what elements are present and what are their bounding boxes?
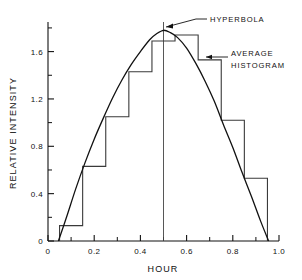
chart-figure: 00.40.81.21.6 00.20.40.60.81.0 HYPERBOLA… — [0, 0, 302, 280]
y-axis-tick-labels: 00.40.81.21.6 — [31, 48, 43, 246]
y-tick-label: 0.8 — [31, 142, 43, 151]
x-tick-label: 0.4 — [134, 247, 146, 256]
x-tick-label: 0 — [46, 247, 51, 256]
hyperbola-annotation-label: HYPERBOLA — [210, 15, 265, 24]
y-axis-title: RELATIVE INTENSITY — [8, 77, 18, 189]
histogram-arrow-head — [206, 55, 212, 59]
x-tick-label: 1.0 — [273, 247, 285, 256]
histogram-annotation-label-line2: HISTOGRAM — [231, 61, 285, 70]
x-tick-label: 0.6 — [180, 247, 192, 256]
x-axis-title: HOUR — [148, 264, 179, 274]
x-tick-label: 0.2 — [88, 247, 100, 256]
x-axis-tick-labels: 00.20.40.60.81.0 — [46, 247, 286, 256]
hyperbola-arrow-head — [166, 24, 173, 29]
y-axis-ticks — [48, 28, 54, 241]
y-tick-label: 0 — [38, 237, 43, 246]
y-tick-label: 1.6 — [31, 48, 43, 57]
histogram-annotation-label-line1: AVERAGE — [231, 49, 273, 58]
y-tick-label: 1.2 — [31, 95, 43, 104]
x-tick-label: 0.8 — [227, 247, 239, 256]
chart-canvas: 00.40.81.21.6 00.20.40.60.81.0 HYPERBOLA… — [0, 0, 302, 280]
y-tick-label: 0.4 — [31, 190, 43, 199]
